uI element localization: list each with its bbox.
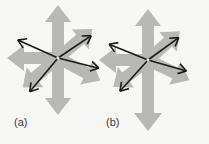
panel-b-center-node bbox=[146, 58, 149, 61]
panel-a-center-node bbox=[56, 56, 59, 59]
panel-label-a: (a) bbox=[14, 116, 27, 128]
panel-label-b: (b) bbox=[106, 116, 119, 128]
arrow-diagram-canvas bbox=[0, 0, 209, 144]
figure-root: (a) (b) bbox=[0, 0, 209, 144]
